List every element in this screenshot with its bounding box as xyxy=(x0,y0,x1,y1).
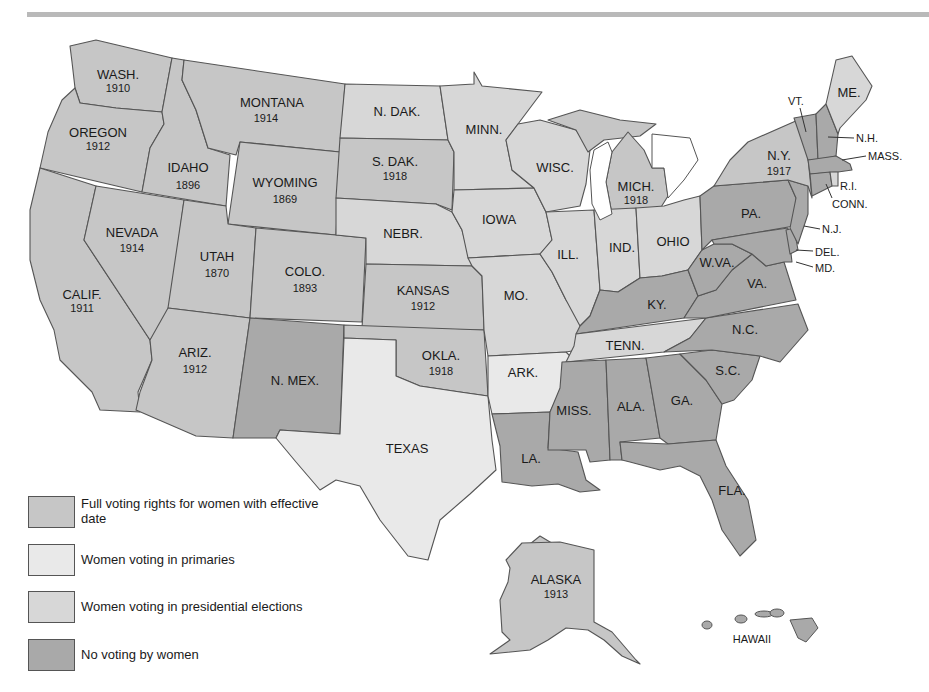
label-n-dak: N. DAK. xyxy=(374,104,421,119)
label-calif: CALIF. xyxy=(62,287,101,302)
year-kansas: 1912 xyxy=(411,300,435,312)
label-ny: N.Y. xyxy=(767,148,791,163)
us-suffrage-map: WASH. 1910 OREGON 1912 CALIF. 1911 IDAHO… xyxy=(0,0,929,692)
label-md: MD. xyxy=(815,262,835,274)
label-conn: CONN. xyxy=(832,198,867,210)
year-calif: 1911 xyxy=(70,302,94,314)
label-s-dak: S. DAK. xyxy=(372,154,418,169)
year-mich: 1918 xyxy=(624,194,648,206)
leader-md xyxy=(796,262,813,267)
label-mo: MO. xyxy=(504,288,529,303)
state-connecticut xyxy=(810,172,832,196)
label-oregon: OREGON xyxy=(69,125,127,140)
label-nh: N.H. xyxy=(856,132,878,144)
label-me: ME. xyxy=(837,85,860,100)
label-sc: S.C. xyxy=(715,363,740,378)
year-alaska: 1913 xyxy=(544,588,568,600)
legend-item-none: No voting by women xyxy=(28,639,341,671)
year-ariz: 1912 xyxy=(183,363,207,375)
legend-swatch-none xyxy=(28,639,75,671)
label-mass: MASS. xyxy=(868,150,902,162)
label-vt: VT. xyxy=(788,95,804,107)
legend-label-primaries: Women voting in primaries xyxy=(81,544,341,567)
label-nc: N.C. xyxy=(732,322,758,337)
label-texas: TEXAS xyxy=(386,441,429,456)
label-colo: COLO. xyxy=(285,264,325,279)
label-ala: ALA. xyxy=(617,399,645,414)
label-wisc: WISC. xyxy=(536,160,574,175)
label-ohio: OHIO xyxy=(656,234,689,249)
label-pa: PA. xyxy=(741,206,761,221)
year-utah: 1870 xyxy=(205,267,229,279)
label-miss: MISS. xyxy=(556,403,591,418)
label-utah: UTAH xyxy=(200,249,234,264)
label-idaho: IDAHO xyxy=(167,160,208,175)
label-alaska: ALASKA xyxy=(531,572,582,587)
state-florida xyxy=(620,440,756,556)
label-ky: KY. xyxy=(647,297,666,312)
leader-mass xyxy=(842,156,866,160)
label-del: DEL. xyxy=(815,246,839,258)
legend-item-primaries: Women voting in primaries xyxy=(28,544,341,576)
label-tenn: TENN. xyxy=(606,338,645,353)
legend-swatch-primaries xyxy=(28,544,75,576)
legend-swatch-full xyxy=(28,496,75,528)
label-ga: GA. xyxy=(671,393,693,408)
legend-item-full: Full voting rights for women with effect… xyxy=(28,496,341,528)
state-rhode-island xyxy=(830,172,838,186)
year-okla: 1918 xyxy=(429,365,453,377)
year-oregon: 1912 xyxy=(86,140,110,152)
year-wyoming: 1869 xyxy=(273,193,297,205)
label-wash: WASH. xyxy=(97,67,139,82)
label-fla: FLA. xyxy=(718,483,745,498)
year-nevada: 1914 xyxy=(120,242,144,254)
year-idaho: 1896 xyxy=(176,179,200,191)
label-montana: MONTANA xyxy=(240,95,304,110)
legend-label-none: No voting by women xyxy=(81,639,341,662)
label-okla: OKLA. xyxy=(422,348,460,363)
legend-label-presidential: Women voting in presidential elections xyxy=(81,591,341,614)
label-ill: ILL. xyxy=(557,247,579,262)
label-nevada: NEVADA xyxy=(106,225,159,240)
label-wva: W.VA. xyxy=(699,255,734,270)
label-ind: IND. xyxy=(609,240,635,255)
label-nebr: NEBR. xyxy=(383,226,423,241)
state-massachusetts xyxy=(808,156,852,174)
state-alaska xyxy=(490,542,640,664)
leader-nj xyxy=(804,226,820,229)
label-ri: R.I. xyxy=(840,180,857,192)
label-kansas: KANSAS xyxy=(397,283,450,298)
label-iowa: IOWA xyxy=(482,212,517,227)
legend-label-full: Full voting rights for women with effect… xyxy=(81,496,341,526)
year-s-dak: 1918 xyxy=(383,170,407,182)
label-ark: ARK. xyxy=(508,365,538,380)
year-montana: 1914 xyxy=(254,112,278,124)
leader-del xyxy=(796,250,813,251)
year-wash: 1910 xyxy=(106,82,130,94)
label-ariz: ARIZ. xyxy=(178,345,211,360)
label-la: LA. xyxy=(521,451,541,466)
legend-swatch-presidential xyxy=(28,591,75,623)
year-ny: 1917 xyxy=(767,165,791,177)
label-hawaii: HAWAII xyxy=(733,633,771,645)
label-nj: N.J. xyxy=(822,223,842,235)
label-minn: MINN. xyxy=(466,122,503,137)
label-mich: MICH. xyxy=(618,179,655,194)
year-colo: 1893 xyxy=(293,282,317,294)
legend-item-presidential: Women voting in presidential elections xyxy=(28,591,341,623)
label-n-mex: N. MEX. xyxy=(271,373,319,388)
label-va: VA. xyxy=(747,276,767,291)
label-wyoming: WYOMING xyxy=(253,175,318,190)
